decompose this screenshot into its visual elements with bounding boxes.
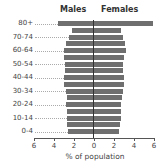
bar-males [64,55,94,60]
leader-dots [35,51,64,52]
bar-females [94,82,124,87]
bar-females [94,102,121,107]
age-group-label: 20-24 [0,101,33,108]
x-tick-label: 2 [108,142,120,150]
age-group-label: 30-34 [0,88,33,95]
age-group-label: 0-4 [0,128,33,135]
x-tick [154,138,155,141]
bar-males [68,129,94,134]
leader-dots [35,37,69,38]
bar-males [67,122,94,127]
bar-males [67,116,94,121]
age-group-label: 70-74 [0,34,33,41]
bar-females [94,95,122,100]
bar-females [94,41,125,46]
x-tick [94,138,95,141]
bar-females [94,62,123,67]
bar-males [64,48,94,53]
bar-males [67,109,94,114]
legend-females: Females [101,5,138,14]
age-group-label: 10-14 [0,115,33,122]
bar-males [72,28,94,33]
bar-females [94,122,120,127]
x-tick [114,138,115,141]
x-tick [54,138,55,141]
bar-females [94,68,123,73]
x-tick-label: 2 [68,142,80,150]
bar-males [66,89,94,94]
center-axis-line [93,20,94,138]
leader-dots [35,118,67,119]
x-tick [134,138,135,141]
bar-females [94,28,121,33]
bar-males [69,35,94,40]
leader-dots [35,91,66,92]
leader-dots [35,132,68,133]
bar-females [94,109,121,114]
age-group-label: 50-54 [0,61,33,68]
leader-dots [35,24,58,25]
x-axis-label: % of population [60,152,130,161]
bar-males [65,68,94,73]
bar-males [66,102,94,107]
x-tick-label: 6 [28,142,40,150]
bar-males [67,95,94,100]
bar-females [94,55,124,60]
bar-males [64,75,94,80]
x-tick-label: 0 [88,142,100,150]
age-group-label: 80+ [0,20,33,27]
bar-females [94,129,119,134]
bar-males [58,21,94,26]
legend-males: Males [60,5,86,14]
x-tick-label: 4 [128,142,140,150]
x-tick-label: 6 [148,142,160,150]
x-tick [34,138,35,141]
bar-males [66,41,94,46]
leader-dots [35,78,64,79]
bar-females [94,35,123,40]
leader-dots [35,64,65,65]
age-group-label: 40-44 [0,74,33,81]
bar-females [94,89,123,94]
bar-females [94,75,124,80]
bar-females [94,48,126,53]
x-tick-label: 4 [48,142,60,150]
age-group-label: 60-64 [0,47,33,54]
leader-dots [35,105,66,106]
bar-females [94,116,121,121]
x-tick [74,138,75,141]
bar-males [64,82,94,87]
bar-males [65,62,94,67]
bar-females [94,21,153,26]
